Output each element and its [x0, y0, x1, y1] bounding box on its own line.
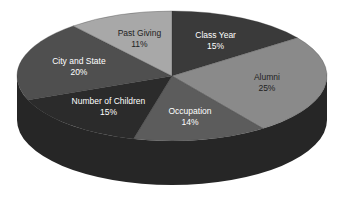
pie-chart: Class Year15%Alumni25%Occupation14%Numbe… — [0, 0, 345, 210]
slice-percent: 15% — [100, 107, 117, 117]
slice-name: Number of Children — [72, 96, 146, 106]
slice-percent: 25% — [258, 83, 275, 93]
slice-percent: 11% — [131, 39, 148, 49]
slice-name: Occupation — [169, 106, 212, 116]
slice-percent: 15% — [207, 41, 224, 51]
slice-name: Alumni — [254, 72, 280, 82]
slice-name: Class Year — [195, 30, 236, 40]
pie-slices — [17, 11, 327, 141]
slice-name: Past Giving — [118, 28, 162, 38]
slice-percent: 20% — [70, 67, 87, 77]
slice-percent: 14% — [181, 117, 198, 127]
slice-name: City and State — [52, 56, 106, 66]
